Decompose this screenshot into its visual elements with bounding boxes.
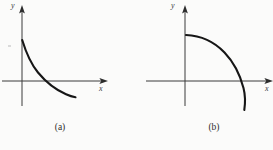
caption-b: (b) [194,122,234,132]
curve-a [22,40,75,97]
figure-container: y x (a) y x (b) [0,0,273,150]
curve-b [186,35,245,110]
x-axis-label-b: x [265,85,269,93]
panel-b: y x (b) [137,0,273,150]
caption-a: (a) [40,122,80,132]
x-axis-label-a: x [99,85,103,93]
y-axis-label-b: y [171,2,175,10]
panel-a: y x (a) [0,0,137,150]
y-axis-label-a: y [11,2,15,10]
scan-smudge-a [8,45,11,47]
